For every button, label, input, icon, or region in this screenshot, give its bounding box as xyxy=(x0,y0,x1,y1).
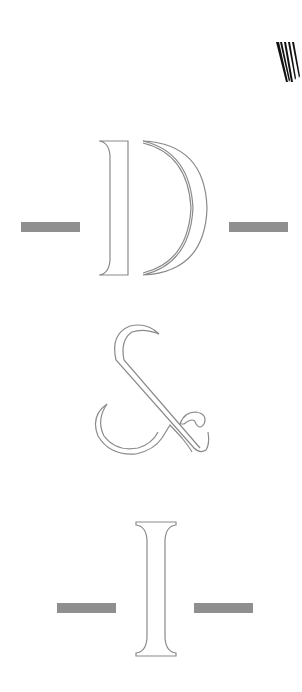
letter-i-outline-icon xyxy=(134,520,178,660)
corner-w-mark xyxy=(276,42,302,86)
i-right-dash xyxy=(194,603,253,613)
i-left-dash xyxy=(57,603,116,613)
ampersand-outline-icon xyxy=(92,320,222,460)
d-and-i-graphic: D & I xyxy=(0,0,302,692)
d-right-dash xyxy=(229,222,288,232)
letter-d-outline-icon xyxy=(95,138,215,280)
d-left-dash xyxy=(21,222,80,232)
